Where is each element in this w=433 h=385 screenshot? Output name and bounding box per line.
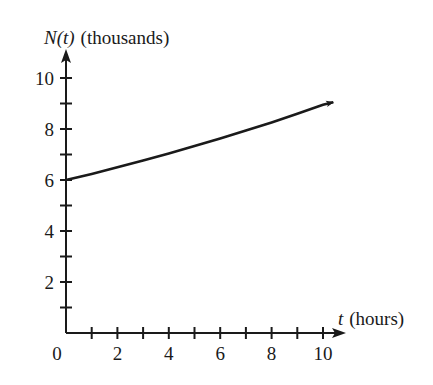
x-tick-label: 2 xyxy=(113,343,123,364)
x-axis-variable: t xyxy=(338,308,344,329)
y-axis-variable: N(t) xyxy=(43,27,75,49)
y-tick-label: 8 xyxy=(45,119,55,140)
origin-label: 0 xyxy=(52,343,62,364)
y-axis: 246810 xyxy=(35,49,72,333)
x-axis-title: t(hours) xyxy=(338,308,404,330)
chart: 246810 246810 N(t)(thousands) t(hours) 0 xyxy=(0,0,433,385)
y-tick-label: 2 xyxy=(45,272,55,293)
y-tick-label: 6 xyxy=(45,170,55,191)
x-tick-label: 8 xyxy=(267,343,277,364)
y-tick-label: 10 xyxy=(35,68,54,89)
x-tick-label: 4 xyxy=(164,343,174,364)
y-axis-unit: (thousands) xyxy=(81,27,170,49)
x-tick-label: 6 xyxy=(215,343,225,364)
y-axis-title: N(t)(thousands) xyxy=(43,27,169,49)
x-axis-unit: (hours) xyxy=(349,308,404,330)
y-tick-labels: 246810 xyxy=(35,68,55,293)
y-tick-label: 4 xyxy=(45,221,55,242)
x-tick-label: 10 xyxy=(314,343,333,364)
x-axis: 246810 xyxy=(66,327,346,364)
x-tick-labels: 246810 xyxy=(113,343,333,364)
growth-curve xyxy=(66,102,333,180)
